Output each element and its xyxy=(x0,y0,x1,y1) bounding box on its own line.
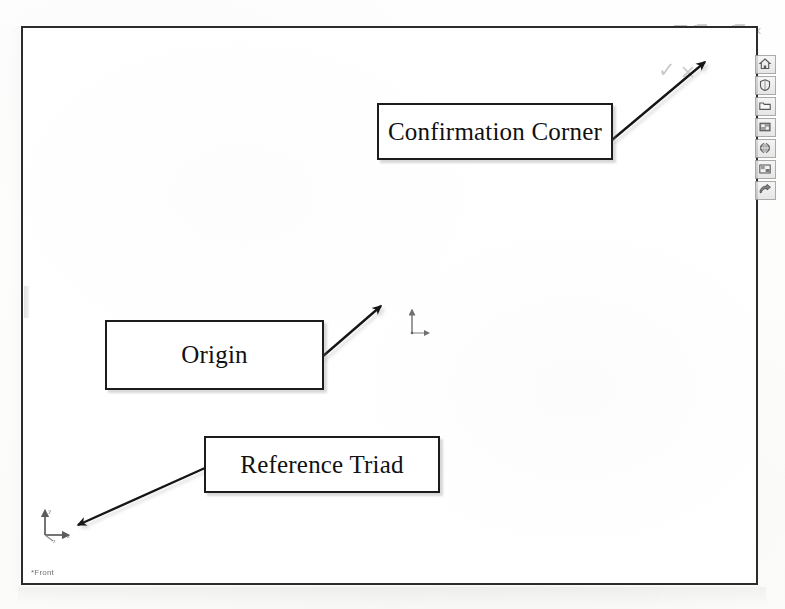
callout-confirmation-corner: Confirmation Corner xyxy=(377,103,613,160)
search-library-icon[interactable] xyxy=(755,118,776,137)
svg-text:x: x xyxy=(67,533,70,539)
task-pane-rail[interactable] xyxy=(755,55,774,200)
svg-text:z: z xyxy=(53,538,56,543)
confirmation-corner[interactable]: ✓ ✕ xyxy=(658,55,704,89)
callout-origin: Origin xyxy=(105,320,324,390)
appearances-scenes-icon[interactable] xyxy=(755,160,776,179)
svg-text:y: y xyxy=(49,508,52,514)
design-library-home-icon[interactable] xyxy=(755,55,776,74)
page-bottom-shadow xyxy=(18,587,766,605)
custom-properties-icon[interactable] xyxy=(755,181,776,200)
callout-confirmation-corner-label: Confirmation Corner xyxy=(388,118,602,146)
confirm-accept-icon[interactable]: ✓ xyxy=(658,59,676,80)
panel-splitter-handle[interactable] xyxy=(24,286,29,318)
origin-marker[interactable] xyxy=(406,309,432,337)
design-library-icon[interactable] xyxy=(755,76,776,95)
view-palette-icon[interactable] xyxy=(755,139,776,158)
callout-reference-triad: Reference Triad xyxy=(204,436,440,493)
callout-origin-label: Origin xyxy=(181,341,247,369)
file-explorer-icon[interactable] xyxy=(755,97,776,116)
callout-reference-triad-label: Reference Triad xyxy=(240,451,403,479)
page-left-shadow xyxy=(8,26,20,591)
status-bar-view-name: *Front xyxy=(31,568,54,577)
reference-triad: y x z xyxy=(38,507,74,543)
confirm-cancel-icon[interactable]: ✕ xyxy=(680,63,696,82)
